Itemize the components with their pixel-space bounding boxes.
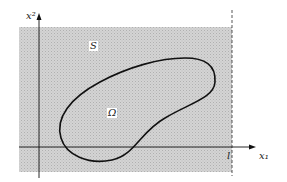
x1-axis-label: x₁	[259, 151, 269, 161]
x1-axis-arrow-icon	[249, 145, 256, 150]
y-axis-label: x²	[26, 11, 36, 21]
y-axis-arrow-icon	[37, 13, 42, 20]
domain-diagram	[0, 0, 287, 182]
region-omega-label: Ω	[107, 108, 117, 118]
region-s-label: S	[89, 41, 98, 51]
boundary-l-label: l	[227, 151, 230, 161]
